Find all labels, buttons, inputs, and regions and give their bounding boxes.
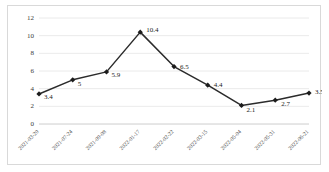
x-axis-tick-label: 2021-07-24 bbox=[51, 128, 74, 151]
x-axis-tick-label: 2022-01-17 bbox=[118, 128, 141, 151]
y-axis-tick-label: 6 bbox=[31, 67, 35, 75]
line-chart: 0246810122021-03-202021-07-242021-09-082… bbox=[8, 6, 322, 166]
data-point-label: 5.9 bbox=[112, 71, 121, 79]
y-axis-tick-label: 4 bbox=[31, 85, 35, 93]
data-point-marker bbox=[306, 90, 311, 95]
x-axis-tick-label: 2021-09-08 bbox=[85, 128, 108, 151]
y-axis-tick-label: 0 bbox=[31, 120, 35, 128]
data-point-label: 3.5 bbox=[315, 88, 322, 96]
x-axis-tick-label: 2022-06-21 bbox=[287, 128, 310, 151]
data-point-label: 2.1 bbox=[247, 106, 256, 114]
data-point-marker bbox=[273, 98, 278, 103]
y-axis-tick-label: 10 bbox=[27, 32, 35, 40]
data-point-label: 2.7 bbox=[281, 100, 290, 108]
chart-container: 0246810122021-03-202021-07-242021-09-082… bbox=[7, 5, 321, 165]
data-point-label: 10.4 bbox=[146, 26, 159, 34]
data-point-marker bbox=[36, 91, 41, 96]
x-axis-tick-label: 2022-05-31 bbox=[253, 128, 276, 151]
x-axis-tick-label: 2022-03-15 bbox=[186, 128, 209, 151]
y-axis-tick-label: 12 bbox=[27, 14, 35, 22]
data-point-label: 4.4 bbox=[214, 81, 223, 89]
y-axis-tick-label: 8 bbox=[31, 49, 35, 57]
data-point-marker bbox=[70, 77, 75, 82]
data-point-label: 6.5 bbox=[180, 63, 189, 71]
data-point-label: 5 bbox=[78, 80, 82, 88]
data-point-label: 3.4 bbox=[44, 93, 53, 101]
x-axis-tick-label: 2022-02-22 bbox=[152, 128, 175, 151]
x-axis-tick-label: 2021-03-20 bbox=[17, 128, 40, 151]
x-axis-tick-label: 2022-05-04 bbox=[220, 128, 243, 151]
y-axis-tick-label: 2 bbox=[31, 102, 35, 110]
chart-plot-area: 0246810122021-03-202021-07-242021-09-082… bbox=[8, 6, 322, 166]
